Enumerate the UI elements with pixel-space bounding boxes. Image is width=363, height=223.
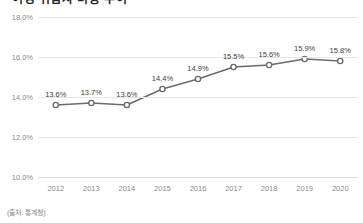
- data-point-label: 15.5%: [223, 52, 244, 61]
- x-axis-tick-label: 2015: [154, 184, 171, 193]
- gridline: [38, 177, 358, 178]
- x-axis-tick-label: 2019: [296, 184, 313, 193]
- plot-area: 18.0%16.0%14.0%12.0%10.0%201220132014201…: [38, 17, 358, 177]
- data-point-label: 14.4%: [152, 74, 173, 83]
- gridline: [38, 57, 358, 58]
- data-point-marker: [53, 102, 58, 107]
- y-axis-tick-label: 16.0%: [12, 53, 33, 62]
- gridline: [38, 17, 358, 18]
- x-axis-tick-label: 2020: [332, 184, 349, 193]
- gridline: [38, 97, 358, 98]
- data-point-label: 15.6%: [258, 50, 279, 59]
- y-axis-tick-label: 10.0%: [12, 173, 33, 182]
- data-point-label: 13.7%: [81, 88, 102, 97]
- data-point-label: 15.9%: [294, 44, 315, 53]
- data-point-marker: [338, 58, 343, 63]
- line-chart: 여성 취업자 비중 추이 18.0%16.0%14.0%12.0%10.0%20…: [0, 0, 363, 223]
- x-axis-tick-label: 2013: [83, 184, 100, 193]
- x-axis-tick-label: 2016: [190, 184, 207, 193]
- data-point-marker: [231, 64, 236, 69]
- source-note: (출처: 통계청): [7, 207, 46, 217]
- data-point-label: 14.9%: [187, 64, 208, 73]
- y-axis-tick-label: 12.0%: [12, 133, 33, 142]
- data-point-marker: [124, 102, 129, 107]
- data-point-marker: [267, 62, 272, 67]
- x-axis-tick-label: 2014: [119, 184, 136, 193]
- data-point-label: 13.6%: [45, 90, 66, 99]
- y-axis-tick-label: 18.0%: [12, 13, 33, 22]
- data-point-marker: [89, 100, 94, 105]
- y-axis-tick-label: 14.0%: [12, 93, 33, 102]
- x-axis-tick-label: 2017: [225, 184, 242, 193]
- data-point-marker: [195, 76, 200, 81]
- gridline: [38, 137, 358, 138]
- data-point-label: 15.8%: [330, 46, 351, 55]
- chart-title: 여성 취업자 비중 추이: [12, 0, 127, 6]
- data-point-marker: [160, 86, 165, 91]
- x-axis-tick-label: 2012: [47, 184, 64, 193]
- data-point-label: 13.6%: [116, 90, 137, 99]
- x-axis-tick-label: 2018: [261, 184, 278, 193]
